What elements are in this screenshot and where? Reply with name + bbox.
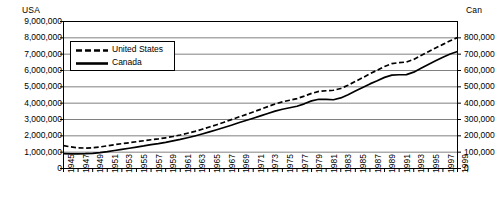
legend-swatch-solid-icon xyxy=(76,62,108,65)
plot-area xyxy=(0,0,503,221)
legend: United States Canada xyxy=(70,41,175,71)
chart-container: USA Can 9,000,0008,000,0007,000,0006,000… xyxy=(0,0,503,221)
legend-label-canada: Canada xyxy=(112,57,142,67)
legend-swatch-dashed-icon xyxy=(76,49,108,52)
legend-label-united-states: United States xyxy=(112,44,163,54)
